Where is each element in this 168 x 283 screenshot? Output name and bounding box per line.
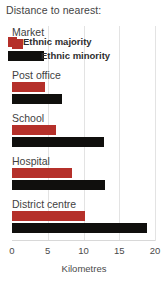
bar-post-office-ethnic-minority: [12, 94, 62, 104]
bar-group-district-centre: District centre: [12, 198, 155, 241]
gridline-20: [155, 26, 156, 241]
bar-hospital-ethnic-minority: [12, 180, 105, 190]
category-label: District centre: [12, 198, 76, 210]
x-axis-tick-labels: 05101520: [12, 245, 155, 259]
bar-school-ethnic-majority: [12, 125, 56, 135]
legend-label-ethnic-minority: Ethnic minority: [41, 50, 110, 62]
category-label: Post office: [12, 69, 61, 81]
category-label: Hospital: [12, 155, 50, 167]
chart-title: Distance to nearest:: [6, 4, 101, 16]
x-tick-15: 15: [114, 245, 125, 256]
legend-label-ethnic-majority: Ethnic majority: [23, 36, 92, 48]
x-tick-0: 0: [9, 245, 14, 256]
red-square-swatch: [8, 37, 17, 47]
bar-district-centre-ethnic-minority: [12, 223, 147, 233]
x-tick-5: 5: [45, 245, 50, 256]
bar-group-school: School: [12, 112, 155, 155]
x-tick-20: 20: [150, 245, 161, 256]
x-axis-title: Kilometres: [0, 263, 168, 274]
distance-to-nearest-bar-chart: Distance to nearest: MarketPost officeSc…: [0, 0, 168, 283]
bar-post-office-ethnic-majority: [12, 82, 45, 92]
bar-group-hospital: Hospital: [12, 155, 155, 198]
black-bar-swatch: [8, 51, 35, 61]
bar-school-ethnic-minority: [12, 137, 104, 147]
bar-group-post-office: Post office: [12, 69, 155, 112]
x-tick-10: 10: [78, 245, 89, 256]
category-label: School: [12, 112, 44, 124]
bar-hospital-ethnic-majority: [12, 168, 72, 178]
bar-district-centre-ethnic-majority: [12, 211, 85, 221]
